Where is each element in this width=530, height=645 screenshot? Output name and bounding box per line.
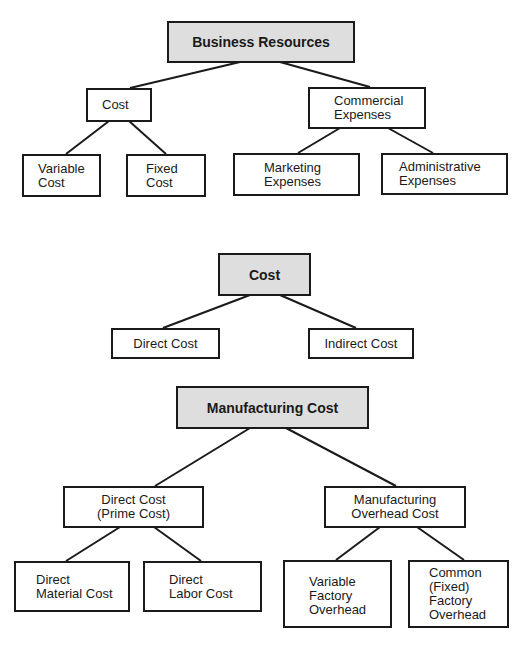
node-cost-root: Cost	[218, 253, 311, 296]
node-fixed-cost: Fixed Cost	[126, 154, 206, 197]
node-label: (Fixed)	[429, 580, 469, 594]
node-label: Cost	[146, 176, 173, 190]
node-label: Overhead Cost	[351, 507, 438, 521]
node-direct-material-cost: Direct Material Cost	[14, 561, 130, 612]
node-variable-cost: Variable Cost	[22, 154, 101, 197]
node-administrative-expenses: Administrative Expenses	[381, 153, 508, 195]
node-label: (Prime Cost)	[97, 507, 170, 521]
node-label: Factory	[309, 589, 352, 603]
node-variable-factory-overhead: Variable Factory Overhead	[283, 560, 392, 628]
node-label: Cost	[102, 98, 129, 112]
node-label: Business Resources	[192, 35, 330, 49]
node-label: Expenses	[264, 175, 321, 189]
node-label: Variable	[38, 162, 85, 176]
node-label: Factory	[429, 594, 472, 608]
node-label: Direct	[169, 573, 203, 587]
node-label: Fixed	[146, 162, 178, 176]
node-label: Direct Cost	[133, 337, 197, 351]
node-label: Direct Cost	[101, 493, 165, 507]
node-label: Common	[429, 566, 482, 580]
node-marketing-expenses: Marketing Expenses	[233, 153, 360, 196]
node-manufacturing-cost: Manufacturing Cost	[176, 386, 369, 429]
node-label: Indirect Cost	[325, 337, 398, 351]
node-label: Administrative	[399, 160, 481, 174]
node-label: Manufacturing Cost	[207, 401, 338, 415]
node-label: Expenses	[334, 108, 391, 122]
node-common-factory-overhead: Common (Fixed) Factory Overhead	[408, 560, 509, 628]
node-direct-cost: Direct Cost	[111, 328, 220, 359]
node-commercial-expenses: Commercial Expenses	[308, 87, 426, 129]
node-label: Overhead	[309, 603, 366, 617]
node-direct-labor-cost: Direct Labor Cost	[143, 561, 262, 612]
node-manufacturing-overhead: Manufacturing Overhead Cost	[324, 486, 466, 528]
node-indirect-cost: Indirect Cost	[308, 328, 414, 359]
node-label: Manufacturing	[354, 493, 436, 507]
node-label: Cost	[38, 176, 65, 190]
node-label: Overhead	[429, 608, 486, 622]
node-label: Material Cost	[36, 587, 113, 601]
connector-lines	[0, 0, 530, 645]
node-label: Direct	[36, 573, 70, 587]
node-label: Commercial	[334, 94, 403, 108]
node-prime-cost: Direct Cost (Prime Cost)	[63, 486, 204, 528]
node-label: Labor Cost	[169, 587, 233, 601]
node-label: Marketing	[264, 161, 321, 175]
node-label: Cost	[249, 268, 280, 282]
node-cost: Cost	[86, 88, 152, 122]
node-business-resources: Business Resources	[167, 21, 355, 63]
node-label: Expenses	[399, 174, 456, 188]
node-label: Variable	[309, 575, 356, 589]
